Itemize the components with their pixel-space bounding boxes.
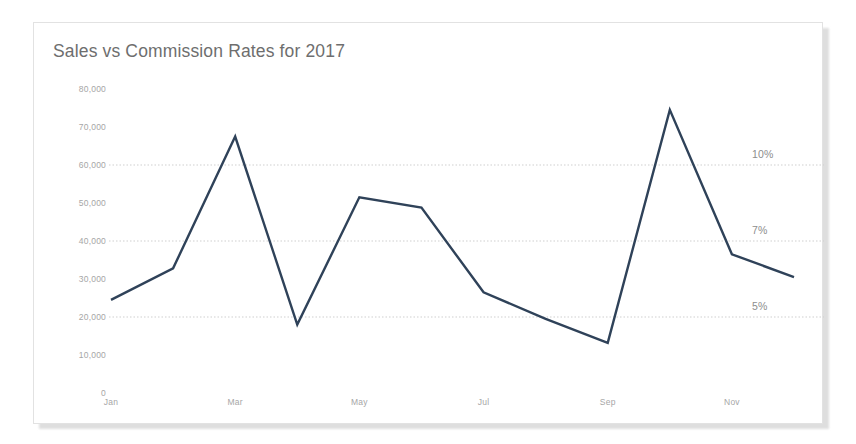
commission-rate-label: 7% xyxy=(752,224,768,236)
commission-rate-labels: 10%7%5% xyxy=(34,23,824,425)
commission-rate-label: 10% xyxy=(752,148,774,160)
chart-card: Sales vs Commission Rates for 2017 80,00… xyxy=(33,22,823,424)
commission-rate-label: 5% xyxy=(752,300,768,312)
plot-area: 80,00070,00060,00050,00040,00030,00020,0… xyxy=(34,23,824,425)
